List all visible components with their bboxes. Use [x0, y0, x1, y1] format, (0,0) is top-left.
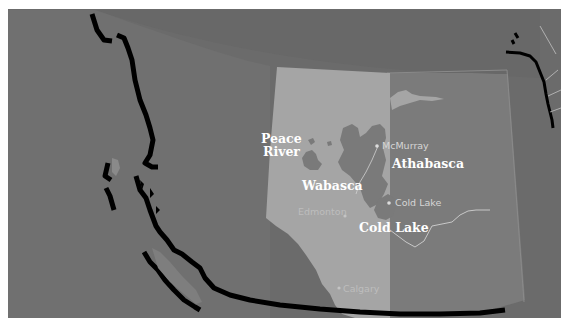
- label-wabasca: Wabasca: [301, 178, 363, 193]
- region-northwest: [8, 10, 270, 318]
- label-athabasca: Athabasca: [391, 156, 464, 171]
- label-city-mcmurray: McMurray: [382, 140, 429, 151]
- label-city-cold-lake: Cold Lake: [395, 197, 441, 208]
- label-city-edmonton: Edmonton: [298, 206, 347, 217]
- region-saskatchewan: [390, 73, 525, 318]
- oil-sands-map: Peace River Wabasca Athabasca Cold Lake …: [0, 0, 561, 329]
- label-city-calgary: Calgary: [343, 283, 380, 294]
- label-peace-river-line2: River: [263, 144, 300, 159]
- city-marker-calgary: [337, 286, 340, 289]
- label-cold-lake: Cold Lake: [359, 220, 429, 235]
- city-marker-cold-lake: [387, 201, 391, 205]
- city-marker-mcmurray: [375, 144, 379, 148]
